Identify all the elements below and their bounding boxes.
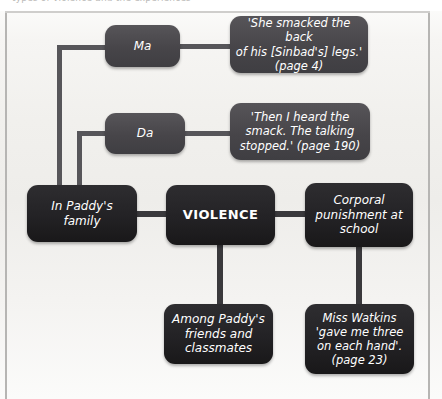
node-da-quote-line1: 'Then I heard the xyxy=(251,110,350,124)
node-corporal-punishment[interactable]: Corporal punishment at school xyxy=(305,183,413,247)
node-in-paddys-family[interactable]: In Paddy's family xyxy=(27,185,137,242)
connector-school-to-watkins xyxy=(356,240,362,306)
node-corporal-punishment-line1: Corporal xyxy=(333,193,384,208)
node-miss-watkins[interactable]: Miss Watkins 'gave me three on each hand… xyxy=(305,304,414,374)
diagram-canvas: types of violence and the experiences Ma… xyxy=(0,0,442,399)
node-violence[interactable]: VIOLENCE xyxy=(166,185,275,245)
node-miss-watkins-line3: on each hand'. xyxy=(317,339,402,353)
running-header-text: types of violence and the experiences xyxy=(12,0,191,3)
node-ma-quote[interactable]: 'She smacked the back of his [Sinbad's] … xyxy=(230,16,368,73)
connector-family-to-ma-horizontal xyxy=(57,45,109,50)
node-da[interactable]: Da xyxy=(105,113,185,154)
page-right-rule xyxy=(428,11,430,399)
node-da-label: Da xyxy=(137,126,154,141)
connector-violence-to-school xyxy=(270,211,310,217)
page-header-strip: types of violence and the experiences xyxy=(0,0,442,11)
page-left-rule xyxy=(5,11,7,399)
node-miss-watkins-line4: (page 23) xyxy=(332,353,388,367)
connector-ma-to-quote xyxy=(175,44,235,49)
node-violence-label: VIOLENCE xyxy=(183,207,259,223)
node-ma-quote-line1: 'She smacked the back xyxy=(235,16,363,44)
node-ma-label: Ma xyxy=(134,39,152,54)
node-ma[interactable]: Ma xyxy=(105,25,180,67)
node-among-friends-line1: Among Paddy's xyxy=(172,312,265,327)
node-miss-watkins-line1: Miss Watkins xyxy=(322,311,396,325)
node-corporal-punishment-line3: school xyxy=(340,222,378,237)
connector-family-to-ma-vertical xyxy=(57,45,62,190)
connector-da-to-quote xyxy=(180,131,235,136)
connector-family-to-da-vertical xyxy=(77,131,82,190)
node-da-quote-line2: smack. The talking xyxy=(246,124,355,138)
connector-violence-to-friends xyxy=(217,240,223,306)
node-da-quote-line3: stopped.' (page 190) xyxy=(240,139,360,153)
node-ma-quote-line3: (page 4) xyxy=(275,59,324,73)
node-among-friends-line2: friends and xyxy=(185,327,253,342)
node-corporal-punishment-line2: punishment at xyxy=(315,208,402,223)
node-da-quote[interactable]: 'Then I heard the smack. The talking sto… xyxy=(230,103,370,160)
node-ma-quote-line2: of his [Sinbad's] legs.' xyxy=(236,45,362,59)
page-top-rule xyxy=(5,11,430,13)
node-miss-watkins-line2: 'gave me three xyxy=(316,325,404,339)
node-in-paddys-family-label: In Paddy's family xyxy=(32,199,132,228)
node-among-friends-line3: classmates xyxy=(185,341,252,356)
node-among-friends[interactable]: Among Paddy's friends and classmates xyxy=(164,304,273,364)
